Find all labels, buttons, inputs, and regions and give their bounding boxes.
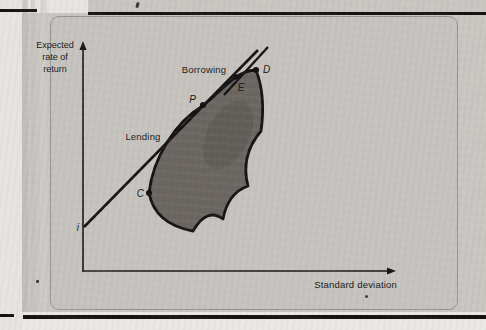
y-axis-label-line3: return bbox=[43, 64, 67, 74]
point-label-P: P bbox=[189, 94, 196, 105]
point-label-E: E bbox=[238, 82, 245, 93]
point-dot-D bbox=[253, 67, 259, 73]
y-axis-label-line1: Expected bbox=[36, 40, 74, 50]
point-label-C: C bbox=[137, 188, 145, 199]
point-label-i: i bbox=[77, 222, 80, 233]
x-axis-label: Standard deviation bbox=[314, 279, 397, 290]
point-dot-P bbox=[200, 102, 206, 108]
borrowing-label: Borrowing bbox=[182, 64, 227, 75]
scanned-textbook-page: Expected rate of return Standard deviati… bbox=[0, 0, 486, 330]
point-label-D: D bbox=[263, 64, 270, 75]
x-axis-arrowhead bbox=[387, 268, 396, 275]
point-dot-E bbox=[233, 74, 238, 79]
scan-speck bbox=[365, 295, 368, 298]
y-axis-label-line2: rate of bbox=[42, 52, 68, 62]
y-axis-arrowhead bbox=[79, 41, 86, 50]
lending-label: Lending bbox=[125, 131, 160, 142]
efficient-frontier-diagram: Expected rate of return Standard deviati… bbox=[0, 0, 486, 330]
scan-speck bbox=[36, 280, 39, 283]
point-dot-C bbox=[146, 190, 152, 196]
